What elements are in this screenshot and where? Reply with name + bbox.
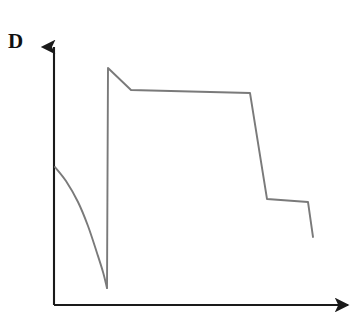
recovery-plateau-curve-segment	[107, 68, 313, 288]
plot-area	[0, 0, 356, 315]
figure-canvas: D	[0, 0, 356, 315]
decay-curve-segment	[55, 167, 107, 288]
